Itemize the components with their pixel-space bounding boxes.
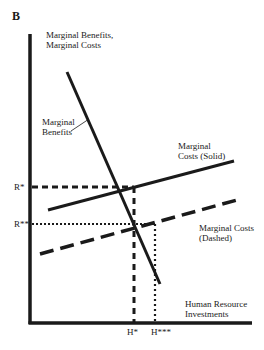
diagram-canvas bbox=[0, 0, 264, 350]
y-axis-label-line2: Marginal Costs bbox=[46, 40, 113, 50]
mc-solid-label-line1: Marginal bbox=[178, 141, 225, 151]
r-star-tick-label: R* bbox=[14, 182, 25, 192]
y-axis-label-line1: Marginal Benefits, bbox=[46, 30, 113, 40]
panel-label: B bbox=[12, 9, 20, 24]
h-star-tick-label: H* bbox=[127, 327, 138, 337]
x-axis-label: Human Resource Investments bbox=[185, 299, 247, 319]
mc-dashed-label-line1: Marginal Costs bbox=[199, 223, 254, 233]
x-axis-label-line2: Investments bbox=[185, 309, 247, 319]
h-triple-star-tick-label: H*** bbox=[151, 327, 171, 337]
marginal-benefits-line bbox=[67, 72, 160, 284]
mb-label-line1: Marginal bbox=[42, 117, 75, 127]
r-double-star-tick-label: R** bbox=[14, 219, 29, 229]
mb-label-line2: Benefits bbox=[42, 127, 75, 137]
y-axis-label: Marginal Benefits, Marginal Costs bbox=[46, 30, 113, 50]
marginal-benefits-label: Marginal Benefits bbox=[42, 117, 75, 137]
mc-solid-label-line2: Costs (Solid) bbox=[178, 151, 225, 161]
marginal-costs-dashed-label: Marginal Costs (Dashed) bbox=[199, 223, 254, 243]
x-axis-label-line1: Human Resource bbox=[185, 299, 247, 309]
marginal-costs-solid-label: Marginal Costs (Solid) bbox=[178, 141, 225, 161]
mc-dashed-label-line2: (Dashed) bbox=[199, 233, 254, 243]
